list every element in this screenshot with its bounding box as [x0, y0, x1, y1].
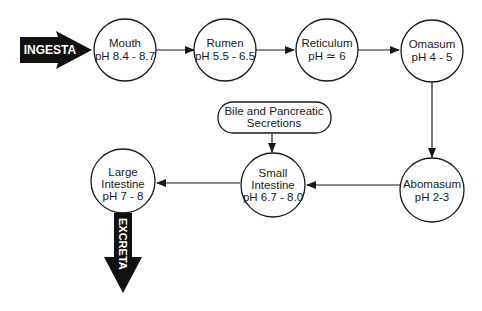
large-intestine-line1: Large: [108, 166, 137, 178]
reticulum-name: Reticulum: [301, 37, 352, 49]
abomasum-ph: pH 2-3: [415, 191, 450, 203]
rumen-ph: pH 5.5 - 6.5: [195, 50, 255, 62]
small-intestine-line2: Intestine: [251, 179, 294, 191]
small-intestine-line1: Small: [259, 167, 288, 179]
ingesta-arrow: INGESTA: [20, 31, 92, 69]
excreta-label: EXCRETA: [117, 218, 129, 270]
flow-diagram: INGESTA Mouth pH 8.4 - 8.7 Rumen pH 5.5 …: [0, 0, 482, 311]
large-intestine-line2: Intestine: [101, 178, 144, 190]
bile-line1: Bile and Pancreatic: [224, 105, 323, 117]
omasum-ph: pH 4 - 5: [412, 51, 453, 63]
ingesta-label: INGESTA: [24, 43, 77, 57]
node-abomasum: [400, 158, 464, 222]
bile-line2: Secretions: [247, 117, 302, 129]
excreta-arrow: EXCRETA: [104, 213, 142, 293]
small-intestine-ph: pH 6.7 - 8.0: [243, 191, 303, 203]
reticulum-ph: pH ≃ 6: [308, 50, 346, 62]
mouth-ph: pH 8.4 - 8.7: [95, 50, 155, 62]
rumen-name: Rumen: [206, 37, 243, 49]
abomasum-name: Abomasum: [403, 178, 461, 190]
omasum-name: Omasum: [409, 38, 456, 50]
large-intestine-ph: pH 7 - 8: [103, 190, 144, 202]
mouth-name: Mouth: [109, 37, 141, 49]
